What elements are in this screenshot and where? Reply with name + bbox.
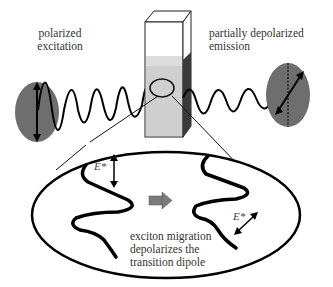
emission-label: partially depolarized emission: [209, 27, 329, 53]
caption-line3: transition dipole: [130, 256, 240, 269]
excitation-label-line1: polarized: [30, 27, 90, 40]
excitation-label: polarized excitation: [30, 27, 90, 53]
emission-ellipse: [266, 63, 310, 127]
excitation-label-line2: excitation: [30, 40, 90, 53]
excited-state-label-left: E*: [93, 160, 107, 172]
emission-label-line1: partially depolarized: [209, 27, 329, 40]
cuvette: [145, 11, 191, 137]
caption: exciton migration depolarizes the transi…: [130, 230, 240, 269]
caption-line1: exciton migration: [130, 230, 240, 243]
excited-state-label-right: E*: [232, 210, 246, 222]
caption-line2: depolarizes the: [130, 243, 240, 256]
emission-label-line2: emission: [209, 40, 329, 53]
